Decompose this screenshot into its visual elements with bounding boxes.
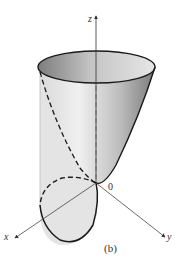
y-axis-label: y [166, 231, 172, 242]
y-axis [96, 183, 165, 237]
paraboloid-cylinder-figure: z x y 0 (b) [0, 0, 183, 259]
x-axis-label: x [3, 231, 9, 242]
figure-caption: (b) [104, 242, 117, 255]
origin-label: 0 [108, 181, 113, 192]
z-axis-label: z [87, 13, 92, 24]
